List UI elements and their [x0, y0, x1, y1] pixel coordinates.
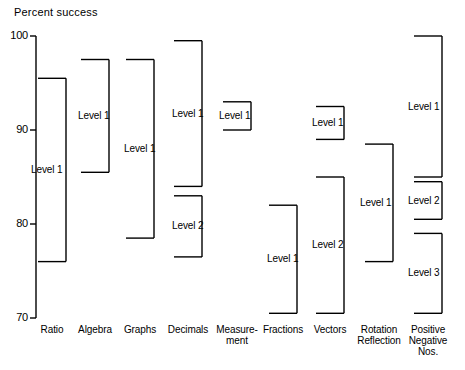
y-tick-label: 90: [2, 123, 28, 135]
level-label: Level 1: [219, 110, 251, 121]
y-tick-label: 70: [2, 311, 28, 323]
level-label: Level 1: [31, 164, 63, 175]
level-label: Level 1: [267, 253, 299, 264]
level-label: Level 1: [172, 108, 204, 119]
y-tick-label: 100: [2, 29, 28, 41]
level-label: Level 1: [78, 110, 110, 121]
level-label: Level 2: [408, 195, 440, 206]
level-label: Level 1: [312, 117, 344, 128]
level-label: Level 2: [172, 220, 204, 231]
x-category-label: Positive Negative Nos.: [395, 324, 461, 357]
y-tick-label: 80: [2, 217, 28, 229]
range-bracket-group: [38, 36, 442, 313]
chart-plot-area: [0, 0, 465, 370]
level-label: Level 1: [408, 101, 440, 112]
level-label: Level 3: [408, 267, 440, 278]
level-label: Level 2: [312, 239, 344, 250]
level-label: Level 1: [360, 197, 392, 208]
chart-canvas: Percent success 100908070 RatioAlgebraGr…: [0, 0, 465, 370]
y-axis: [30, 36, 36, 318]
level-label: Level 1: [124, 143, 156, 154]
